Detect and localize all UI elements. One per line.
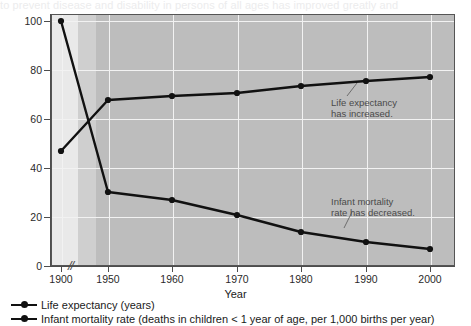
annotation-leader-life bbox=[347, 83, 357, 96]
legend-label-life-expectancy: Life expectancy (years) bbox=[41, 299, 155, 312]
legend-line-marker-icon bbox=[11, 314, 37, 324]
legend-item-life-expectancy: Life expectancy (years) bbox=[11, 298, 466, 312]
annotation-life-expectancy: Life expectancy has increased. bbox=[331, 97, 427, 119]
chart-legend: Life expectancy (years) Infant mortality… bbox=[11, 298, 466, 326]
series-plot bbox=[0, 0, 471, 326]
chart-figure: 100 80 60 40 20 0 1900 1950 1960 1970 19… bbox=[0, 0, 471, 326]
legend-item-infant-mortality: Infant mortality rate (deaths in childre… bbox=[11, 312, 466, 326]
annotation-infant-mortality: Infant mortality rate has decreased. bbox=[331, 196, 431, 218]
legend-label-infant-mortality: Infant mortality rate (deaths in childre… bbox=[41, 313, 434, 326]
legend-line-marker-icon bbox=[11, 300, 37, 310]
